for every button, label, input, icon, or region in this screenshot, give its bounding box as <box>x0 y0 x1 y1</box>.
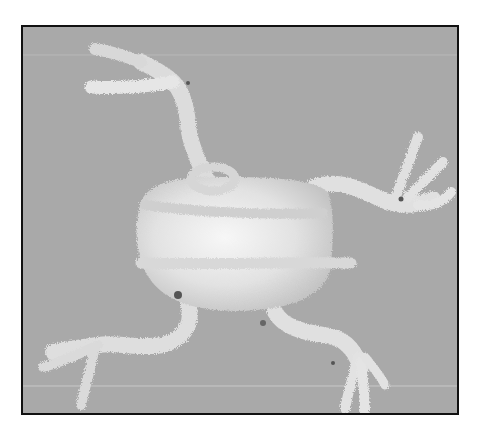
photo-frame: Grayscale photo of a frog figure crafted… <box>21 25 459 415</box>
frog-illustration <box>23 27 457 413</box>
frog-body <box>137 177 333 311</box>
dark-speck <box>399 197 404 202</box>
right-hind-leg <box>275 312 361 367</box>
dark-speck <box>186 81 190 85</box>
dark-speck <box>260 320 266 326</box>
dark-speck <box>174 291 182 299</box>
left-hind-leg <box>53 302 190 352</box>
lower-stripe <box>141 263 351 264</box>
dark-speck <box>331 361 335 365</box>
